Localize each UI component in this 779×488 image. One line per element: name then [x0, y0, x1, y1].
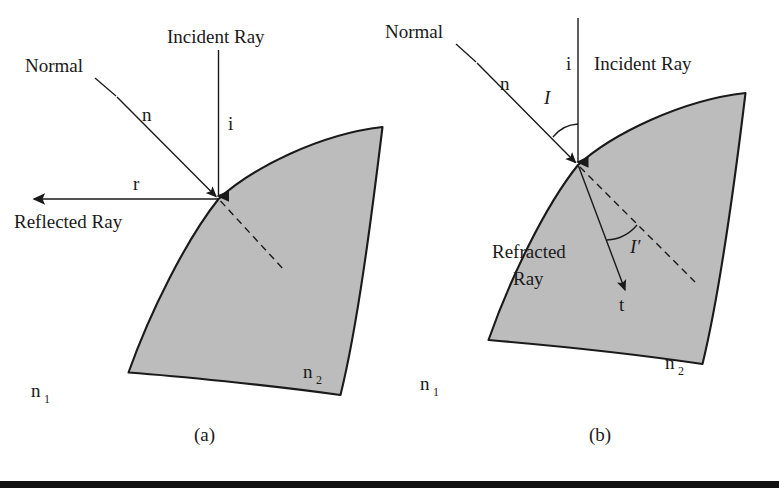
medium-inner-subscript-a: 2	[316, 373, 322, 387]
panel-a-caption: (a)	[194, 424, 215, 446]
medium-outer-subscript-a: 1	[44, 392, 50, 406]
medium-outer-subscript-b: 1	[433, 385, 439, 399]
normal-label-leader-a	[95, 78, 116, 96]
incident-angle-symbol-a: i	[228, 113, 233, 134]
normal-ray-line-a	[117, 97, 216, 197]
medium-outer-letter-a: n	[31, 380, 41, 401]
incident-angle-symbol-b: i	[566, 53, 571, 74]
medium-outer-letter-b: n	[420, 373, 430, 394]
medium-outer-label-b: n 1	[420, 373, 439, 399]
medium-inner-subscript-b: 2	[678, 364, 684, 378]
refracted-ray-label-line2-b: Ray	[513, 268, 544, 289]
optics-figure: Incident Ray i Normal n r Reflected Ray …	[0, 0, 779, 488]
dense-medium-region-b	[489, 93, 746, 364]
transmitted-ray-symbol-b: t	[619, 294, 625, 315]
reflected-ray-label-a: Reflected Ray	[14, 211, 123, 232]
reflected-angle-symbol-a: r	[133, 173, 140, 194]
angle-of-incidence-label-b: I	[543, 87, 552, 108]
figure-page: Incident Ray i Normal n r Reflected Ray …	[0, 0, 779, 488]
normal-label-a: Normal	[25, 55, 83, 76]
normal-label-leader-b	[456, 44, 476, 62]
panel-a: Incident Ray i Normal n r Reflected Ray …	[14, 26, 383, 446]
bottom-rule	[0, 481, 779, 488]
normal-ray-line-b	[477, 63, 576, 163]
medium-inner-letter-a: n	[303, 361, 313, 382]
incident-ray-label-b: Incident Ray	[594, 53, 692, 74]
medium-outer-label-a: n 1	[31, 380, 50, 406]
angle-of-incidence-arc-b	[553, 124, 578, 137]
panel-b: Normal n i Incident Ray I I′ Refracted R…	[385, 18, 746, 446]
medium-inner-letter-b: n	[665, 352, 675, 373]
normal-label-b: Normal	[385, 21, 443, 42]
normal-symbol-b: n	[500, 73, 510, 94]
normal-symbol-a: n	[142, 104, 152, 125]
dense-medium-region-a	[129, 127, 383, 395]
incident-ray-label-a: Incident Ray	[167, 26, 265, 47]
angle-of-refraction-label-b: I′	[629, 236, 641, 257]
refracted-ray-label-line1-b: Refracted	[492, 241, 566, 262]
panel-b-caption: (b)	[589, 424, 611, 446]
